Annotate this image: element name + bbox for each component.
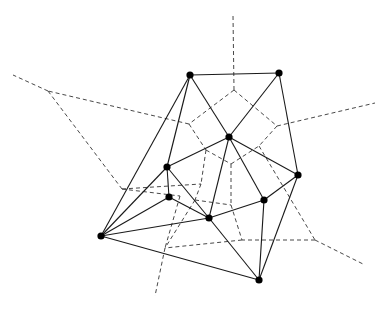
site-point-D: [163, 163, 170, 170]
delaunay-edge-C-F: [209, 137, 229, 218]
voronoi-edge-v13-v12: [165, 200, 195, 248]
site-point-C: [225, 133, 232, 140]
delaunay-edge-I-J: [101, 236, 259, 280]
voronoi-edge-o4-o3: [13, 75, 48, 91]
voronoi-edge-v11-o5: [315, 240, 363, 264]
voronoi-edge-v4-v5: [206, 150, 231, 164]
voronoi-edge-v1-v3: [189, 90, 234, 124]
delaunay-edge-D-E: [167, 167, 169, 197]
delaunay-edge-B-H: [279, 73, 298, 175]
voronoi-layer: [13, 15, 375, 296]
delaunay-layer: [101, 73, 298, 280]
voronoi-edge-v9-v12: [165, 196, 180, 248]
voronoi-edge-v2-o2: [277, 103, 375, 126]
voronoi-edge-v1-v2: [234, 90, 277, 126]
site-point-J: [255, 276, 262, 283]
delaunay-edge-A-D: [167, 75, 190, 167]
delaunay-voronoi-diagram: [0, 0, 384, 331]
delaunay-edge-B-C: [229, 73, 279, 137]
site-layer: [97, 69, 301, 283]
delaunay-edge-H-J: [259, 175, 298, 280]
voronoi-edge-v3-v4: [189, 124, 206, 150]
site-point-H: [294, 171, 301, 178]
site-point-B: [275, 69, 282, 76]
site-point-G: [260, 196, 267, 203]
delaunay-edge-A-B: [190, 73, 279, 75]
site-point-F: [205, 214, 212, 221]
delaunay-edge-A-I: [101, 75, 190, 236]
site-point-I: [97, 232, 104, 239]
voronoi-edge-v2-v6: [259, 126, 277, 146]
voronoi-edge-v6-v11: [259, 146, 315, 240]
delaunay-edge-E-F: [169, 197, 209, 218]
site-point-E: [165, 193, 172, 200]
delaunay-edge-C-D: [167, 137, 229, 167]
delaunay-edge-F-J: [209, 218, 259, 280]
voronoi-edge-v12-o6: [155, 248, 165, 296]
site-point-A: [186, 71, 193, 78]
voronoi-edge-v1-o1: [233, 15, 234, 90]
voronoi-edge-v4-v8: [201, 150, 206, 184]
delaunay-edge-A-C: [190, 75, 229, 137]
voronoi-edge-v8-v13: [195, 184, 201, 200]
voronoi-edge-v7-v8: [122, 184, 201, 189]
